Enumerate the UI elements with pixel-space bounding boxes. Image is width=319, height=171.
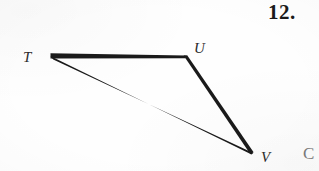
vertex-label-v: V [261, 150, 270, 165]
margin-text-fragment: C [303, 145, 319, 162]
triangle-figure [0, 0, 319, 171]
vertex-label-t: T [23, 50, 31, 65]
edge-TU [51, 53, 186, 58]
vertex-label-u: U [194, 41, 205, 56]
triangle-edges [50, 53, 253, 154]
edge-TV [50, 56, 253, 155]
edge-UV [184, 55, 254, 154]
worksheet-page: T U V 12. C [0, 0, 319, 171]
problem-number: 12. [268, 2, 296, 23]
